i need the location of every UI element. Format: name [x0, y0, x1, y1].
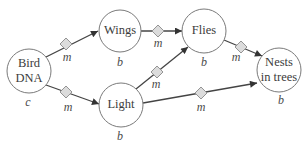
edge-line — [136, 47, 188, 89]
edge-wings-to-flies: m — [141, 25, 182, 50]
edge-bird-dna-to-wings: m — [46, 31, 98, 64]
edge-diamond-icon — [60, 38, 72, 50]
edge-label: m — [64, 100, 73, 114]
node-type-label: c — [25, 95, 31, 109]
node-type-label: b — [278, 93, 284, 107]
node-label-line1: Bird — [18, 56, 41, 70]
node-label-line1: Nests — [265, 55, 293, 69]
node-flies: Flies b — [182, 9, 226, 69]
node-type-label: b — [201, 55, 207, 69]
edge-line — [46, 85, 99, 104]
node-wings: Wings b — [99, 10, 141, 69]
edge-light-to-flies: m — [136, 47, 188, 91]
node-label: Flies — [192, 23, 216, 37]
edge-flies-to-nests: m — [224, 40, 262, 64]
edge-label: m — [152, 77, 161, 91]
node-nests-in-trees: Nests in trees b — [257, 48, 301, 107]
node-type-label: b — [117, 129, 123, 143]
edge-bird-dna-to-light: m — [46, 85, 99, 114]
edge-diamond-icon — [195, 87, 207, 99]
node-type-label: b — [117, 55, 123, 69]
node-label: Light — [107, 97, 135, 111]
edge-label: m — [232, 50, 241, 64]
edge-label: m — [63, 50, 72, 64]
edge-label: m — [154, 36, 163, 50]
node-label: Wings — [104, 23, 136, 37]
edge-diamond-icon — [60, 86, 72, 98]
node-light: Light b — [99, 83, 143, 143]
node-label-line2: DNA — [15, 71, 42, 85]
causal-diagram: m m m m m m Bird DNA c Wings b — [0, 0, 308, 143]
node-bird-dna: Bird DNA c — [7, 49, 51, 109]
node-label-line2: in trees — [261, 70, 298, 84]
edge-label: m — [197, 100, 206, 114]
